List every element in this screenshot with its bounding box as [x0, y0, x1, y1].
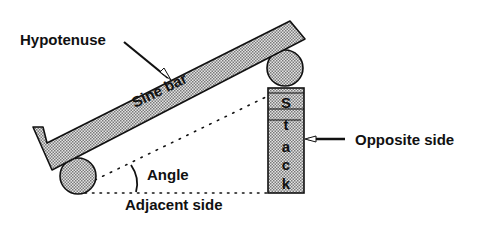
angle-label: Angle	[147, 166, 189, 183]
diagram-canvas: S t a c k Sine bar Hypotenuse Opposite s…	[0, 0, 491, 239]
opposite-arrowhead-icon	[305, 136, 316, 142]
adjacent-side-label: Adjacent side	[125, 196, 223, 213]
hypotenuse-label: Hypotenuse	[20, 31, 106, 48]
stack-letter-k: k	[282, 175, 291, 192]
stack-letter-a: a	[282, 138, 291, 155]
stack-letter-s: S	[281, 94, 291, 111]
sine-bar-diagram: S t a c k Sine bar Hypotenuse Opposite s…	[0, 0, 491, 239]
stack-letter-t: t	[284, 116, 289, 133]
angle-arc	[131, 165, 137, 192]
stack-letter-c: c	[282, 156, 290, 173]
opposite-side-label: Opposite side	[355, 131, 454, 148]
